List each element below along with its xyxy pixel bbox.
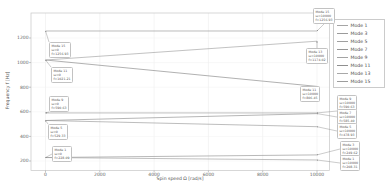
annotation-box: Mode 5ω=10000f=478.93 (337, 123, 357, 139)
legend-label: Mode 3 (351, 31, 368, 36)
x-tick-label: 0 (36, 172, 56, 177)
annotation-leader-arrow (317, 114, 337, 117)
legend-line-swatch (337, 25, 348, 26)
campbell-diagram: Frequency f [Hz] Spin speed Ω [rad/s] 20… (0, 0, 385, 192)
legend-label: Mode 5 (351, 39, 368, 44)
annotation-box: Mode 15ω=0f=1256.93 (49, 42, 71, 58)
mode-line-mode-5 (46, 120, 318, 126)
mode-line-mode-11 (46, 60, 318, 86)
annotation-leader-arrow (46, 31, 50, 42)
annotation-box: Mode 1ω=0f=228.09 (52, 146, 72, 162)
legend-item-mode-1: Mode 1 (337, 22, 381, 30)
annotation-frequency-value: f=1174.02 (309, 58, 326, 62)
annotation-frequency-value: f=478.93 (340, 133, 355, 137)
annotation-box: Mode 11ω=10000f=806.45 (300, 86, 320, 102)
annotation-frequency-value: f=590.63 (52, 106, 67, 110)
annotation-leader-arrow (46, 60, 52, 67)
legend-label: Mode 13 (351, 71, 371, 76)
annotation-frequency-value: f=228.09 (55, 156, 70, 160)
legend-item-mode-5: Mode 5 (337, 38, 381, 46)
legend-label: Mode 9 (351, 55, 368, 60)
annotation-frequency-value: f=529.33 (51, 134, 66, 138)
x-tick-label: 8000 (253, 172, 273, 177)
legend-item-mode-15: Mode 15 (337, 77, 381, 85)
y-tick-label: 1200 (9, 35, 29, 40)
legend-line-swatch (337, 57, 348, 58)
legend-item-mode-11: Mode 11 (337, 61, 381, 69)
y-tick-label: 600 (9, 109, 29, 114)
legend-item-mode-13: Mode 13 (337, 69, 381, 77)
x-tick-label: 2000 (90, 172, 110, 177)
annotation-frequency-value: f=1256.93 (316, 18, 333, 22)
annotation-frequency-value: f=1021.21 (54, 77, 71, 81)
annotation-box: Mode 1ω=10000f=208.31 (340, 155, 360, 171)
annotation-box: Mode 13ω=10000f=1174.02 (306, 48, 328, 64)
annotation-leader-arrow (317, 127, 337, 131)
annotation-frequency-value: f=1256.93 (52, 52, 69, 56)
x-tick-label: 6000 (198, 172, 218, 177)
annotation-leader-arrow (317, 160, 340, 163)
annotation-box: Mode 5ω=0f=529.33 (48, 124, 68, 140)
legend-label: Mode 11 (351, 63, 371, 68)
annotation-box: Mode 9ω=0f=590.63 (49, 96, 69, 112)
legend-label: Mode 15 (351, 79, 371, 84)
legend-line-swatch (337, 73, 348, 74)
legend: Mode 1Mode 3Mode 5Mode 7Mode 9Mode 11Mod… (333, 19, 385, 88)
legend-line-swatch (337, 49, 348, 50)
legend-item-mode-3: Mode 3 (337, 30, 381, 38)
legend-line-swatch (337, 65, 348, 66)
legend-line-swatch (337, 81, 348, 82)
y-tick-label: 1000 (9, 60, 29, 65)
x-axis-label: Spin speed Ω [rad/s] (31, 176, 329, 181)
mode-line-mode-3 (46, 155, 318, 158)
x-tick-label: 4000 (144, 172, 164, 177)
annotation-leader-arrow (317, 149, 340, 155)
x-tick-label: 10000 (307, 172, 327, 177)
legend-line-swatch (337, 41, 348, 42)
annotation-frequency-value: f=806.45 (303, 96, 318, 100)
y-tick-label: 400 (9, 134, 29, 139)
annotation-leader-arrow (317, 24, 324, 31)
legend-line-swatch (337, 33, 348, 34)
y-tick-label: 200 (9, 158, 29, 163)
y-tick-label: 800 (9, 85, 29, 90)
mode-line-mode-1 (46, 158, 318, 160)
legend-item-mode-7: Mode 7 (337, 46, 381, 54)
plot-frame (31, 13, 330, 171)
annotation-box: Mode 15ω=10000f=1256.93 (313, 8, 335, 24)
legend-item-mode-9: Mode 9 (337, 54, 381, 62)
mode-line-mode-7 (46, 114, 318, 121)
annotation-frequency-value: f=208.31 (343, 165, 358, 169)
mode-line-mode-13 (46, 41, 318, 60)
legend-label: Mode 7 (351, 47, 368, 52)
annotation-box: Mode 11ω=0f=1021.21 (51, 67, 73, 83)
legend-label: Mode 1 (351, 23, 368, 28)
